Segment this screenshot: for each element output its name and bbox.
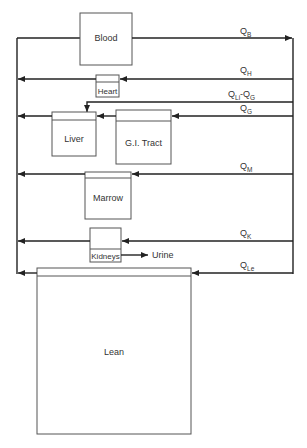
qb-label: QB [240,26,251,38]
qli-sub2: G [250,94,255,101]
qm-sub: M [247,166,252,173]
qh-label: QH [240,65,252,77]
heart-label: Heart [98,87,118,96]
marrow-label: Marrow [93,193,124,203]
gi-tract-box [116,110,171,164]
qli-qg-label: QLi-QG [228,89,255,101]
qk-label: QK [240,228,252,240]
qle-sub: Le [247,265,255,272]
lean-compartment: Lean [18,268,293,434]
qh-sub: H [247,70,252,77]
qb-main: Q [240,26,247,36]
svg-text:QM: QM [240,161,252,173]
qli-minus: -Q [240,89,250,99]
liver-label: Liver [64,134,84,144]
marrow-compartment: Marrow [18,172,293,219]
blood-compartment: Blood [17,13,292,65]
svg-text:QLe: QLe [240,260,255,272]
blood-label: Blood [94,33,117,43]
gi-tract-label: G.I. Tract [125,138,163,148]
qm-main: Q [240,161,247,171]
qm-label: QM [240,161,252,173]
kidneys-compartment: Kidneys Urine [18,228,293,262]
qli-main: Q [228,89,235,99]
pbpk-flow-diagram: Blood QB Heart QH QLi-QG G.I. Tract Live… [0,0,307,448]
qg-sub: G [247,108,252,115]
lean-label: Lean [104,347,124,357]
svg-text:QK: QK [240,228,252,240]
svg-text:QB: QB [240,26,251,38]
qle-main: Q [240,260,247,270]
qb-sub: B [247,31,251,38]
gi-liver-flow: G.I. Tract Liver [18,110,293,164]
qk-sub: K [247,233,252,240]
qk-main: Q [240,228,247,238]
svg-text:QLi-QG: QLi-QG [228,89,255,101]
urine-label: Urine [152,250,174,260]
svg-text:QH: QH [240,65,252,77]
kidneys-label: Kidneys [91,252,119,261]
qg-label: QG [240,103,252,115]
qh-main: Q [240,65,247,75]
qle-label: QLe [240,260,255,272]
svg-text:QG: QG [240,103,252,115]
qg-main: Q [240,103,247,113]
